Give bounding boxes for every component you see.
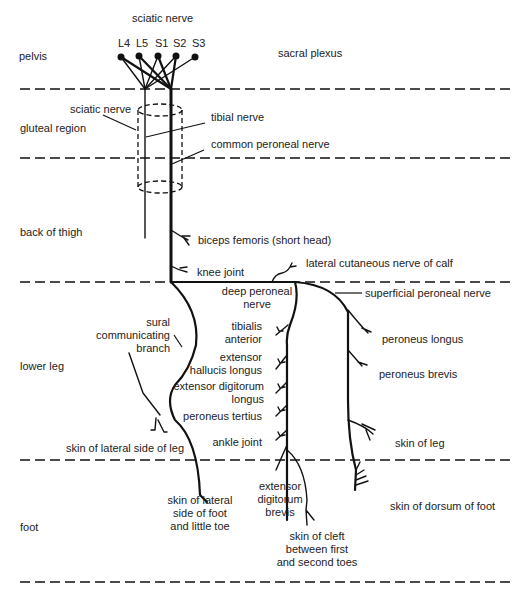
lateral-leg-branches — [151, 418, 167, 432]
label-tibialis-anterior: tibialis anterior — [200, 320, 262, 346]
label-peroneus-longus: peroneus longus — [382, 333, 463, 346]
label-sacral-plexus: sacral plexus — [278, 47, 342, 60]
label-ankle-joint: ankle joint — [190, 436, 262, 449]
label-lateral-cutaneous-calf: lateral cutaneous nerve of calf — [306, 257, 453, 270]
root-S1: S1 — [155, 37, 168, 50]
root-S3: S3 — [192, 37, 205, 50]
label-skin-lateral-foot: skin of lateral side of foot and little … — [166, 494, 234, 533]
label-extensor-digitorum-longus: extensor digitorum longus — [170, 380, 264, 406]
label-skin-of-cleft: skin of cleft between first and second t… — [272, 530, 362, 569]
root-S2: S2 — [173, 37, 186, 50]
label-skin-of-leg: skin of leg — [395, 437, 445, 450]
label-peroneus-brevis: peroneus brevis — [379, 368, 457, 381]
label-peroneus-tertius: peroneus tertius — [180, 410, 262, 423]
label-extensor-digitorum-brevis: extensor digitorum brevis — [254, 480, 306, 519]
label-tibial-nerve: tibial nerve — [211, 111, 264, 124]
label-deep-peroneal: deep peroneal nerve — [221, 285, 293, 311]
root-L4: L4 — [118, 37, 130, 50]
superficial-peroneal-nerve — [295, 282, 356, 490]
label-common-peroneal: common peroneal nerve — [211, 138, 330, 151]
knee-joint-branch — [171, 266, 187, 272]
label-extensor-hallucis-longus: extensor hallucis longus — [180, 351, 262, 377]
region-pelvis: pelvis — [19, 50, 47, 63]
leader-lines — [103, 115, 205, 164]
region-lower-leg: lower leg — [20, 360, 64, 373]
region-foot: foot — [20, 521, 38, 534]
label-sural-communicating: sural communicating branch — [95, 316, 170, 355]
biceps-femoris-branch — [171, 230, 190, 245]
root-L5: L5 — [136, 37, 148, 50]
label-superficial-peroneal: superficial peroneal nerve — [365, 287, 491, 300]
sacral-plexus-roots — [118, 53, 199, 90]
region-gluteal: gluteal region — [20, 122, 86, 135]
label-sciatic-nerve: sciatic nerve — [70, 103, 131, 116]
region-back-of-thigh: back of thigh — [20, 226, 82, 239]
superficial-branches — [348, 310, 375, 485]
label-knee-joint: knee joint — [197, 266, 244, 279]
label-skin-lateral-leg: skin of lateral side of leg — [66, 442, 184, 455]
lateral-cutaneous-nerve-calf — [272, 263, 296, 282]
label-biceps-femoris: biceps femoris (short head) — [198, 234, 331, 247]
label-skin-dorsum-foot: skin of dorsum of foot — [390, 500, 495, 513]
title-sciatic-nerve: sciatic nerve — [132, 12, 193, 25]
